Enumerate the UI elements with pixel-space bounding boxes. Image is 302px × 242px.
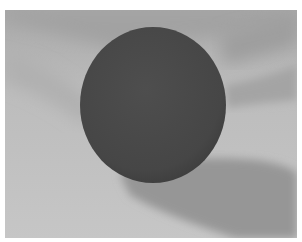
render-frame <box>5 10 297 238</box>
scene-canvas <box>5 10 297 238</box>
dark-sphere <box>80 27 226 183</box>
